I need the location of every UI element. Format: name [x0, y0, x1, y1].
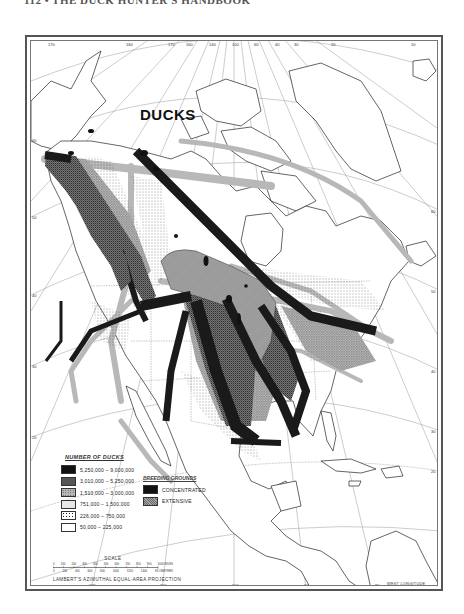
tick-top-10: 10: [411, 42, 415, 47]
tick-top-1: 160: [126, 42, 133, 47]
map-title: DUCKS: [140, 106, 196, 123]
legend-item: CONCENTRATED: [143, 484, 206, 496]
projection-label: LAMBERT'S AZIMUTHAL EQUAL-AREA PROJECTIO…: [53, 577, 173, 582]
legend-label: EXTENSIVE: [162, 498, 192, 504]
legend-breeding-grounds: BREEDING GROUNDS CONCENTRATED EXTENSIVE: [143, 475, 206, 507]
tick-left-3: 30: [32, 364, 36, 369]
tick-top-5: 100: [232, 42, 239, 47]
tick-right-2: 40: [431, 369, 435, 374]
tick-top-0: 170: [48, 42, 55, 47]
tick-right-0: 60: [431, 209, 435, 214]
legend-item: EXTENSIVE: [143, 496, 206, 508]
tick-left-1: 50: [32, 215, 36, 220]
map-frame: DUCKS 170 160 170 160 140 100 60 40 30 2…: [25, 35, 443, 591]
tick-right-4: 20: [431, 469, 435, 474]
legend-label: 3,010,000 – 5,250,000: [80, 478, 134, 484]
tick-bottom-0: 120: [89, 583, 96, 586]
tick-bottom-4: 80: [375, 583, 379, 586]
tick-left-2: 40: [32, 293, 36, 298]
tick-top-4: 140: [209, 42, 216, 47]
tick-left-0: 60: [32, 138, 36, 143]
legend-label: 226,000 – 750,000: [80, 513, 125, 519]
tick-top-8: 30: [294, 42, 298, 47]
legend-label: 1,510,000 – 3,000,000: [80, 490, 134, 496]
tick-top-9: 20: [331, 42, 335, 47]
tick-bottom-3: 90: [304, 583, 308, 586]
legend-label: 751,000 – 1,500,000: [80, 501, 130, 507]
breeding-title: BREEDING GROUNDS: [143, 475, 206, 481]
swatch-extensive: [143, 497, 158, 506]
tick-top-2: 170: [168, 42, 175, 47]
legend-label: 50,000 – 225,000: [80, 524, 122, 530]
scale-block: SCALE 0 100 200 300 400 500 600 700 800 …: [53, 556, 173, 582]
west-longitude-label: WEST LONGITUDE: [387, 582, 425, 586]
legend-title: NUMBER OF DUCKS: [65, 454, 241, 460]
tick-top-7: 40: [275, 42, 279, 47]
map-inner-frame: DUCKS 170 160 170 160 140 100 60 40 30 2…: [30, 40, 438, 586]
tick-right-1: 50: [431, 289, 435, 294]
swatch-concentrated: [143, 485, 158, 494]
swatch-white: [61, 523, 76, 532]
swatch-dark-stipple: [61, 477, 76, 486]
tick-bottom-2: 100: [232, 583, 239, 586]
tick-top-6: 60: [254, 42, 258, 47]
tick-right-3: 30: [431, 429, 435, 434]
legend-label: 5,250,000 – 9,000,000: [80, 467, 134, 473]
swatch-sparse-dots: [61, 511, 76, 520]
legend-item: 50,000 – 225,000: [61, 522, 241, 534]
legend-item: 5,250,000 – 9,000,000: [61, 464, 241, 476]
legend-item: 226,000 – 750,000: [61, 510, 241, 522]
tick-top-3: 160: [186, 42, 193, 47]
swatch-black-dense: [61, 465, 76, 474]
tick-bottom-1: 110: [160, 583, 166, 586]
swatch-light-gray: [61, 500, 76, 509]
tick-left-4: 20: [32, 435, 36, 440]
scale-title: SCALE: [53, 556, 173, 561]
legend-label: CONCENTRATED: [162, 487, 206, 493]
scale-kilometers: 0 200 400 600 800 1000 1200 1400 KILOMET…: [53, 569, 173, 573]
swatch-medium-stipple: [61, 488, 76, 497]
page-header: 112 • THE DUCK HUNTER'S HANDBOOK: [24, 0, 251, 6]
